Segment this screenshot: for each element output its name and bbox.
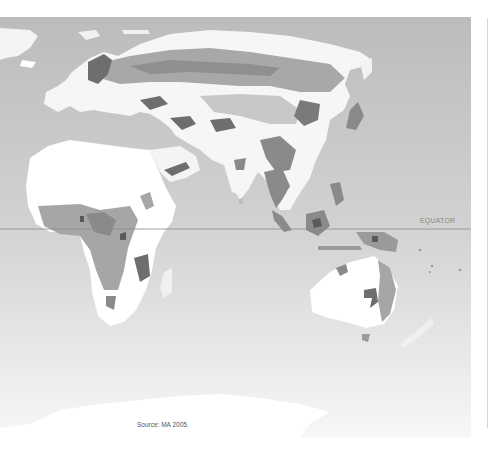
map-figure: EQUATOR Source: MA 2005. (0, 0, 491, 453)
world-map (0, 0, 491, 453)
page-margin-rule (487, 18, 488, 428)
equator-label: EQUATOR (420, 217, 455, 224)
source-caption: Source: MA 2005. (137, 421, 189, 428)
